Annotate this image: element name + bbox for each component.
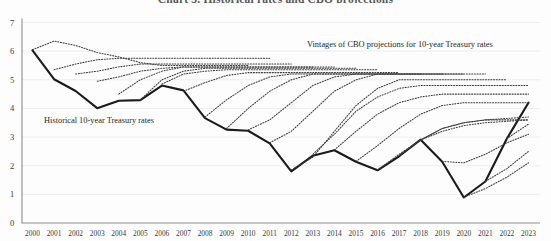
x-axis-tick-labels: 2000200120022003200420052006200720082009… (25, 229, 536, 238)
y-tick-3: 3 (10, 132, 14, 142)
projection-line-1 (33, 41, 249, 65)
projections-annotation: Vintages of CBO projections for 10-year … (307, 40, 493, 49)
x-tick-2007: 2007 (176, 229, 191, 238)
x-tick-2005: 2005 (133, 229, 148, 238)
x-tick-2015: 2015 (349, 229, 364, 238)
y-tick-6: 6 (10, 46, 14, 56)
chart-root: Chart 3. Historical rates and CBO projec… (0, 0, 551, 241)
x-tick-2019: 2019 (435, 229, 450, 238)
x-tick-2021: 2021 (478, 229, 493, 238)
projection-line-9 (205, 74, 421, 117)
x-tick-2016: 2016 (370, 229, 385, 238)
x-tick-2008: 2008 (198, 229, 213, 238)
projection-line-16 (356, 103, 529, 162)
y-tick-7: 7 (10, 18, 14, 28)
projection-line-20 (442, 134, 528, 163)
x-tick-2012: 2012 (284, 229, 299, 238)
x-tick-2001: 2001 (47, 229, 62, 238)
y-tick-2: 2 (10, 161, 14, 171)
y-tick-5: 5 (10, 75, 14, 85)
historical-annotation: Historical 10-year Treasury rates (44, 116, 154, 125)
y-tick-1: 1 (10, 189, 14, 199)
projection-line-8 (183, 73, 399, 92)
y-tick-4: 4 (10, 103, 15, 113)
line-chart: 01234567 2000200120022003200420052006200… (0, 0, 551, 241)
x-tick-2010: 2010 (241, 229, 256, 238)
projection-line-11 (248, 74, 464, 130)
y-tick-0: 0 (10, 218, 14, 228)
x-tick-2017: 2017 (392, 229, 407, 238)
x-tick-2011: 2011 (262, 229, 277, 238)
x-tick-2022: 2022 (500, 229, 515, 238)
x-tick-2000: 2000 (25, 229, 40, 238)
x-tick-2006: 2006 (154, 229, 169, 238)
x-tick-2023: 2023 (521, 229, 536, 238)
x-tick-2004: 2004 (111, 229, 126, 238)
x-tick-2020: 2020 (456, 229, 471, 238)
x-tick-2013: 2013 (305, 229, 320, 238)
projection-line-10 (227, 74, 443, 128)
x-tick-2003: 2003 (90, 229, 105, 238)
projection-line-4 (97, 67, 313, 81)
x-tick-2002: 2002 (68, 229, 83, 238)
projection-line-21 (464, 163, 529, 197)
plot-area: 01234567 2000200120022003200420052006200… (0, 0, 551, 241)
y-axis-tick-labels: 01234567 (10, 18, 15, 229)
x-tick-2009: 2009 (219, 229, 234, 238)
x-tick-2018: 2018 (413, 229, 428, 238)
x-tick-2014: 2014 (327, 229, 342, 238)
